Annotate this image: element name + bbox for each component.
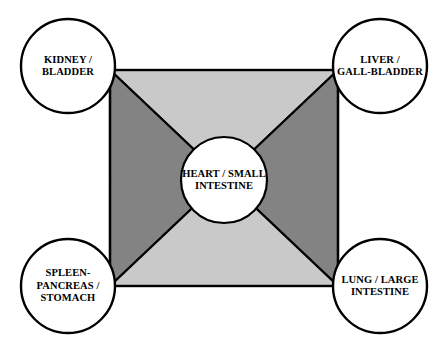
diagram-canvas [0,0,448,349]
lung-large-intestine-node-circle[interactable] [333,239,427,333]
spleen-pancreas-stomach-node-circle[interactable] [21,239,115,333]
kidney-bladder-node-circle[interactable] [21,19,115,113]
organ-correspondence-diagram: KIDNEY / BLADDER LIVER / GALL-BLADDER SP… [0,0,448,349]
liver-gallbladder-node-circle[interactable] [333,19,427,113]
center-node-circle[interactable] [181,137,267,223]
